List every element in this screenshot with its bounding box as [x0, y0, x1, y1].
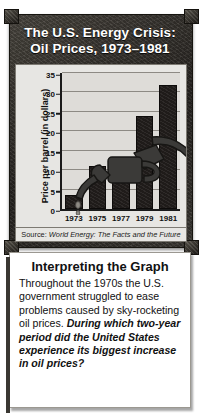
- frame-corner-top-right: [184, 9, 199, 24]
- y-tick-label: 35: [46, 71, 55, 80]
- chart-title-line-1: The U.S. Energy Crisis:: [24, 25, 176, 41]
- chart-panel: Price per barrel (in dollars) 0510152025…: [15, 64, 187, 242]
- source-title: World Energy: The Facts and the Future: [49, 230, 181, 239]
- x-tick-label: 1973: [65, 214, 83, 223]
- card-shadow-bar: [6, 257, 10, 413]
- y-tick-label: 30: [46, 90, 55, 99]
- bar-1973: [65, 195, 82, 209]
- y-tick-label: 0: [51, 207, 55, 216]
- chart-source: Source: World Energy: The Facts and the …: [16, 227, 186, 241]
- energy-crisis-figure: The U.S. Energy Crisis: Oil Prices, 1973…: [0, 0, 199, 420]
- y-axis-ticks: 05101520253035: [16, 73, 60, 211]
- y-tick-label: 5: [51, 187, 55, 196]
- source-prefix: Source:: [21, 230, 49, 239]
- y-tick-label: 20: [46, 129, 55, 138]
- chart-title-line-2: Oil Prices, 1973–1981: [30, 41, 169, 57]
- y-tick-label: 25: [46, 109, 55, 118]
- bar-1979: [136, 116, 153, 209]
- interpreting-card: Interpreting the Graph Throughout the 19…: [9, 252, 191, 408]
- bar-1977: [112, 160, 129, 209]
- x-tick-label: 1979: [136, 214, 154, 223]
- y-tick-label: 10: [46, 168, 55, 177]
- chart-title-banner: The U.S. Energy Crisis: Oil Prices, 1973…: [16, 20, 184, 62]
- x-tick-label: 1975: [88, 214, 106, 223]
- bar-1981: [159, 85, 176, 209]
- card-body: Throughout the 1970s the U.S. government…: [19, 277, 181, 371]
- bar-1975: [89, 166, 106, 209]
- x-tick-label: 1977: [112, 214, 130, 223]
- bar-series: [62, 73, 180, 209]
- card-heading: Interpreting the Graph: [19, 259, 181, 274]
- x-tick-label: 1981: [159, 214, 177, 223]
- x-axis-ticks: 19731975197719791981: [62, 211, 180, 223]
- y-tick-label: 15: [46, 148, 55, 157]
